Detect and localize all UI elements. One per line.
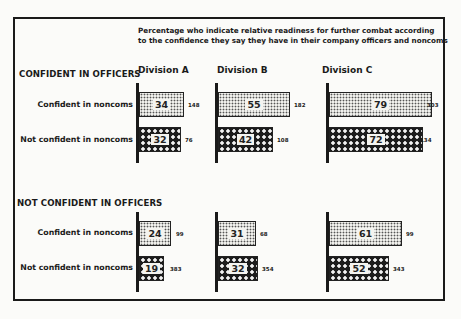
bar-c-officers-notconf-noncoms-conf: 61 (329, 221, 402, 246)
bar-c-officers-conf-noncoms-conf: 79 (329, 92, 432, 117)
bar-value: 52 (350, 263, 367, 274)
division-b-heading: Division B (217, 65, 268, 75)
sample-size: 134 (420, 137, 431, 143)
bar-value: 32 (229, 263, 246, 274)
sample-size: 354 (262, 266, 273, 272)
row-label-confident-noncoms: Confident in noncoms (15, 100, 133, 109)
sample-size: 383 (170, 266, 181, 272)
sample-size: 99 (176, 231, 184, 237)
sample-size: 99 (406, 231, 414, 237)
bar-value: 55 (245, 99, 262, 110)
sample-size: 68 (260, 231, 268, 237)
bar-value: 42 (237, 134, 254, 145)
bar-value: 34 (153, 99, 170, 110)
bar-a-officers-conf-noncoms-conf: 34 (139, 92, 184, 117)
sample-size: 303 (427, 102, 438, 108)
bar-a-officers-conf-noncoms-notconf: 32 (139, 127, 181, 152)
bar-value: 24 (146, 228, 163, 239)
bar-b-officers-notconf-noncoms-notconf: 32 (218, 256, 258, 281)
bar-c-officers-conf-noncoms-notconf: 72 (329, 127, 423, 152)
bar-b-officers-notconf-noncoms-conf: 31 (218, 221, 256, 246)
division-c-heading: Division C (322, 65, 372, 75)
bar-value: 79 (372, 99, 389, 110)
row-label-not-confident-noncoms: Not confident in noncoms (15, 135, 133, 144)
chart-title: Percentage who indicate relative readine… (138, 26, 448, 46)
division-a-heading: Division A (138, 65, 189, 75)
sample-size: 108 (277, 137, 288, 143)
section-label-confident-officers: CONFIDENT IN OFFICERS (19, 69, 141, 79)
bar-c-officers-notconf-noncoms-notconf: 52 (329, 256, 389, 281)
bar-a-officers-notconf-noncoms-conf: 24 (139, 221, 171, 246)
bar-value: 31 (228, 228, 245, 239)
section-label-not-confident-officers: NOT CONFIDENT IN OFFICERS (17, 198, 162, 208)
bar-b-officers-conf-noncoms-conf: 55 (218, 92, 290, 117)
row-label-not-confident-noncoms: Not confident in noncoms (15, 263, 133, 272)
bar-value: 19 (143, 263, 160, 274)
bar-value: 32 (151, 134, 168, 145)
sample-size: 148 (188, 102, 199, 108)
sample-size: 76 (185, 137, 193, 143)
sample-size: 343 (393, 266, 404, 272)
bar-b-officers-conf-noncoms-notconf: 42 (218, 127, 273, 152)
row-label-confident-noncoms: Confident in noncoms (15, 228, 133, 237)
bar-value: 61 (357, 228, 374, 239)
sample-size: 182 (294, 102, 305, 108)
bar-a-officers-notconf-noncoms-notconf: 19 (139, 256, 164, 281)
bar-value: 72 (367, 134, 384, 145)
